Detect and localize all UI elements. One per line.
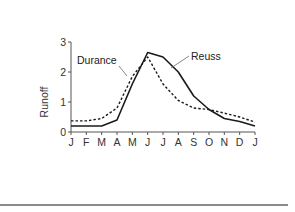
x-tick-label: J	[160, 136, 165, 148]
durance-leader-line	[119, 66, 127, 76]
x-tick-label: D	[236, 136, 244, 148]
reuss-leader-line	[171, 56, 189, 68]
y-tick-label: 2	[60, 66, 66, 78]
x-tick-label: N	[221, 136, 229, 148]
annotations: Durance Reuss	[77, 50, 221, 76]
x-tick-label: J	[68, 136, 73, 148]
durance-line	[71, 57, 255, 122]
x-tick-label: J	[252, 136, 257, 148]
bottom-rule-divider	[0, 204, 288, 206]
axes: 0123JFMAMJJASONDJ	[60, 36, 257, 148]
x-tick-label: M	[97, 136, 106, 148]
reuss-label: Reuss	[191, 50, 221, 62]
x-tick-label: A	[113, 136, 120, 148]
x-tick-label: S	[190, 136, 197, 148]
x-tick-label: J	[145, 136, 150, 148]
durance-label: Durance	[77, 54, 117, 66]
y-tick-label: 1	[60, 96, 66, 108]
runoff-chart: 0123JFMAMJJASONDJ Durance Reuss Runoff	[0, 0, 295, 212]
x-tick-label: O	[205, 136, 213, 148]
y-tick-label: 0	[60, 126, 66, 138]
y-tick-label: 3	[60, 36, 66, 48]
x-tick-label: A	[175, 136, 182, 148]
x-tick-label: M	[128, 136, 137, 148]
y-axis-label: Runoff	[38, 87, 50, 118]
x-tick-label: F	[83, 136, 89, 148]
